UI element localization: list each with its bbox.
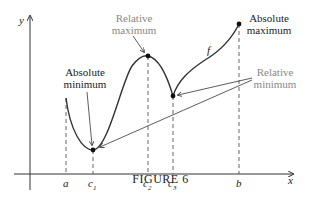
- label-relative-maximum: Relativemaximum: [108, 12, 160, 36]
- point-c1: [91, 148, 96, 153]
- label-absolute-maximum: Absolutemaximum: [243, 12, 295, 36]
- figure-caption: FIGURE 6: [0, 172, 321, 187]
- y-axis-label: y: [19, 14, 24, 26]
- point-c3: [171, 94, 176, 99]
- function-label: f: [207, 44, 210, 56]
- point-b: [237, 22, 242, 27]
- label-relative-minimum: Relativeminimum: [250, 66, 300, 90]
- label-absolute-minimum: Absoluteminimum: [60, 66, 110, 90]
- point-c2: [146, 54, 151, 59]
